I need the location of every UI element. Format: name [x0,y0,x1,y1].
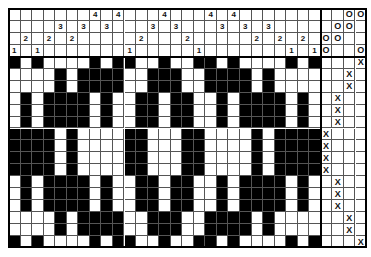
treadling-mark: X [344,81,356,93]
drawdown-cell [9,164,21,176]
drawdown-cell [286,129,298,141]
drawdown-cell [228,57,240,69]
drawdown-cell [101,129,113,141]
drawdown-cell [252,140,264,152]
drawdown-cell [263,152,275,164]
drawdown-cell [240,236,252,248]
drawdown-cell [263,117,275,129]
drawdown-cell [194,69,206,81]
drawdown-cell [228,188,240,200]
threading-cell [217,45,229,57]
drawdown-cell [171,117,183,129]
drawdown-cell [67,93,79,105]
drawdown-cell [240,176,252,188]
drawdown-cell [263,212,275,224]
drawdown-cell [44,57,56,69]
tieup-cell [344,33,356,45]
drawdown-cell [182,129,194,141]
drawdown-cell [55,212,67,224]
drawdown-cell [263,140,275,152]
drawdown-cell [148,105,160,117]
threading-mark: 3 [171,21,183,33]
drawdown-cell [286,140,298,152]
threading-cell [148,33,160,45]
threading-cell [136,9,148,21]
drawdown-cell [32,212,44,224]
drawdown-cell [205,188,217,200]
drawdown-cell [125,164,137,176]
drawdown-cell [55,117,67,129]
treadling-cell [356,105,368,117]
drawdown-cell [298,224,310,236]
drawdown-cell [55,236,67,248]
threading-cell [136,21,148,33]
treadling-cell [356,81,368,93]
threading-cell [44,45,56,57]
drawdown-cell [136,152,148,164]
drawdown-cell [159,212,171,224]
threading-mark: 2 [21,33,33,45]
treadling-cell [332,140,344,152]
drawdown-cell [182,200,194,212]
threading-mark: 2 [182,33,194,45]
treadling-cell [321,57,333,69]
threading-cell [101,33,113,45]
drawdown-cell [159,176,171,188]
drawdown-cell [101,140,113,152]
drawdown-cell [90,212,102,224]
drawdown-cell [136,129,148,141]
drawdown-cell [9,129,21,141]
threading-cell [9,9,21,21]
drawdown-cell [194,224,206,236]
drawdown-cell [217,117,229,129]
drawdown-cell [32,176,44,188]
drawdown-cell [44,93,56,105]
drawdown-cell [205,152,217,164]
threading-cell [67,45,79,57]
drawdown-cell [136,224,148,236]
tieup-cell [321,21,333,33]
drawdown-cell [90,57,102,69]
drawdown-cell [44,224,56,236]
threading-cell [171,9,183,21]
drawdown-cell [298,117,310,129]
drawdown-cell [171,57,183,69]
drawdown-cell [32,188,44,200]
treadling-cell [332,152,344,164]
drawdown-cell [263,176,275,188]
threading-cell [240,9,252,21]
drawdown-cell [21,212,33,224]
drawdown-cell [298,129,310,141]
threading-cell [228,33,240,45]
drawdown-cell [67,224,79,236]
drawdown-cell [205,105,217,117]
drawdown-cell [21,236,33,248]
drawdown-cell [148,224,160,236]
drawdown-cell [182,224,194,236]
drawdown-cell [182,164,194,176]
threading-cell [90,45,102,57]
drawdown-cell [32,93,44,105]
drawdown-cell [21,152,33,164]
drawdown-cell [240,81,252,93]
threading-cell [286,21,298,33]
drawdown-cell [298,236,310,248]
drawdown-cell [21,140,33,152]
threading-cell [228,21,240,33]
threading-mark: 3 [55,21,67,33]
drawdown-cell [101,117,113,129]
drawdown-cell [90,69,102,81]
drawdown-cell [136,212,148,224]
drawdown-cell [240,224,252,236]
drawdown-cell [90,129,102,141]
threading-cell [252,9,264,21]
drawdown-cell [171,176,183,188]
drawdown-cell [171,200,183,212]
drawdown-cell [217,224,229,236]
drawdown-cell [182,236,194,248]
threading-mark: 1 [32,45,44,57]
drawdown-cell [44,105,56,117]
drawdown-cell [228,152,240,164]
drawdown-cell [275,93,287,105]
drawdown-cell [275,105,287,117]
